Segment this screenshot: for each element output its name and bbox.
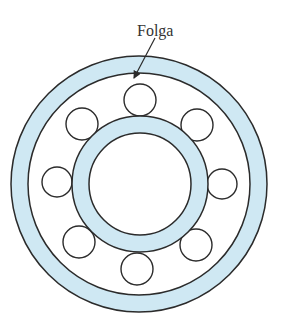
bearing-diagram: Folga [0, 0, 285, 326]
ball-left [42, 167, 72, 197]
clearance-label: Folga [137, 22, 173, 40]
ball-right [207, 169, 237, 199]
ball-bottom [121, 253, 153, 285]
inner-ring [72, 116, 208, 252]
ball-top [124, 84, 156, 116]
